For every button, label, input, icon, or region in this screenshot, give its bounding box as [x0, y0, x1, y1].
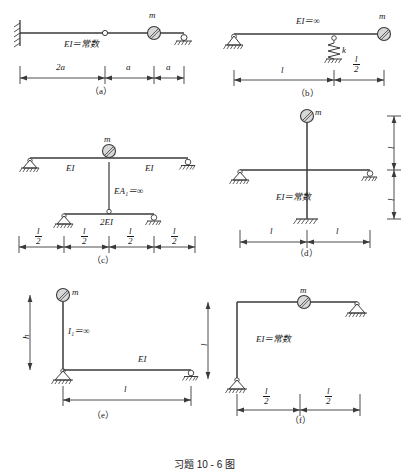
height-dimension-f [206, 302, 211, 379]
right-pin-hatch-f [346, 313, 366, 317]
mass-icon-f [298, 296, 311, 309]
dimension-label-b-2: l2 [353, 56, 360, 75]
figure-a: m EI＝常数 2a a a （a） [8, 12, 198, 96]
horizontal-dimension-label-d-2: l [336, 226, 339, 236]
vertical-dimension-d [387, 116, 401, 219]
link-stiffness-label-c: EA₁＝∞ [114, 184, 144, 197]
span-label-e: l [124, 384, 127, 394]
upper-right-stiffness-label-c: EI [145, 163, 154, 173]
mass-icon [148, 27, 161, 40]
base-pin-hatch [52, 380, 72, 384]
spring-label-b: k [342, 45, 346, 55]
dimension-label-c-2: l2 [81, 228, 88, 247]
beam-roller-hatch-e [183, 377, 199, 381]
beam-pin-hatch [230, 180, 250, 184]
mass-label-e: m [72, 287, 79, 297]
mass-icon-e [57, 289, 70, 302]
beam-pin-triangle-icon [233, 172, 247, 180]
page-caption: 习题 10 - 6 图 [0, 456, 409, 471]
link-bottom-hinge-icon [107, 209, 111, 213]
roller-circle-icon [181, 35, 187, 41]
dimension-line-group [20, 66, 184, 84]
dimension-label-f-1: l2 [263, 388, 270, 407]
mass-label-c: m [104, 134, 111, 144]
stiffness-label-f: EI＝常数 [256, 332, 292, 345]
dimension-label-a-2: a [126, 62, 131, 72]
column-stiffness-label-e: I₁＝∞ [68, 324, 90, 337]
lower-roller-circle-icon [151, 215, 157, 221]
base-pin-hatch-f [226, 389, 246, 393]
figure-b: m EI＝∞ k l l2 （b） [212, 12, 402, 96]
dimension-label-a-1: 2a [56, 62, 65, 72]
internal-hinge-icon [102, 30, 107, 35]
upper-pin-triangle-icon [23, 160, 37, 168]
figure-label-f: （f） [290, 413, 311, 426]
base-pin-triangle-icon-f [229, 380, 245, 389]
mass-icon-b [378, 28, 391, 41]
mass-icon-c [103, 145, 116, 158]
figure-d-drawing [212, 106, 407, 258]
figure-label-e: （e） [92, 408, 114, 421]
dimension-label-c-3: l2 [127, 228, 134, 247]
mass-label-d: m [315, 107, 322, 117]
upper-roller-circle-icon [185, 159, 191, 165]
fixed-wall-hatch [14, 23, 20, 47]
upper-left-stiffness-label-c: EI [66, 163, 75, 173]
mass-label-b: m [379, 11, 386, 21]
stiffness-label-d: EI＝常数 [276, 190, 312, 203]
figure-label-d: （d） [295, 246, 318, 259]
lower-stiffness-label-c: 2EI [100, 217, 113, 227]
height-label-e: h [21, 335, 31, 340]
upper-pin-hatch [20, 168, 40, 172]
stiffness-label-a: EI＝常数 [64, 37, 100, 50]
lower-roller-hatch [146, 221, 162, 225]
roller-ground-hatch [175, 41, 192, 45]
height-dimension-e [28, 295, 33, 370]
figure-label-c: （c） [92, 253, 114, 266]
dimension-label-c-4: l2 [171, 228, 178, 247]
lower-pin-hatch [54, 224, 74, 228]
base-pin-triangle-icon [55, 371, 71, 380]
beam-roller-circle-icon [367, 171, 373, 177]
beam-stiffness-label-e: EI [138, 354, 147, 364]
beam-roller-circle-icon-e [188, 370, 194, 376]
horizontal-dimension-label-d-1: l [270, 226, 273, 236]
dimension-label-b-1: l [281, 65, 284, 75]
figure-e: m h I₁＝∞ EI l （e） [8, 282, 203, 437]
column-base-hatch [294, 219, 318, 224]
pin-triangle-icon [227, 36, 241, 45]
stiffness-label-b: EI＝∞ [296, 14, 320, 27]
pin-ground-hatch [224, 45, 244, 49]
figure-f-drawing [212, 276, 407, 436]
right-pin-triangle-icon-f [349, 304, 365, 313]
span-dimension-e [63, 386, 191, 406]
upper-roller-hatch [180, 166, 196, 170]
spring-top-hinge-icon [332, 36, 337, 41]
beam-roller-hatch [362, 177, 378, 181]
spring-ground-hatch [325, 59, 342, 63]
figure-f: m EI＝常数 l l2 l2 （f） [212, 276, 407, 436]
dimension-line-group-c [19, 236, 195, 253]
vertical-dimension-label-d-2: l [386, 198, 396, 201]
figure-c: m EI EI EA₁＝∞ 2EI l2 l2 l2 l2 （c） [8, 110, 198, 260]
figure-label-a: （a） [90, 84, 112, 97]
mass-label-a: m [149, 10, 156, 20]
figure-d: m EI＝常数 l l l l （d） [212, 106, 407, 258]
dimension-line-group-b [234, 70, 384, 86]
dimension-label-a-3: a [166, 62, 171, 72]
mass-label-f: m [300, 285, 307, 295]
dimension-label-f-2: l2 [325, 388, 332, 407]
dimension-label-c-1: l2 [35, 228, 42, 247]
mass-icon-d [301, 110, 314, 123]
spring-coil-icon [328, 43, 340, 59]
vertical-dimension-label-d-1: l [386, 146, 396, 149]
lower-pin-triangle-icon [57, 216, 71, 224]
height-label-f: l [199, 343, 209, 346]
figure-label-b: （b） [296, 86, 319, 99]
